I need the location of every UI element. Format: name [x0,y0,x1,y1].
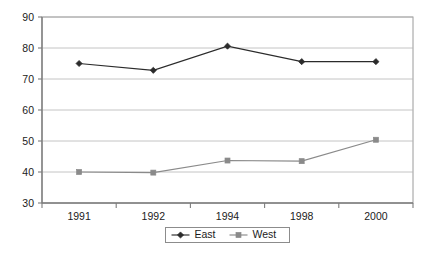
x-axis-tick-labels: 19911992199419982000 [67,210,387,222]
y-tick-label: 30 [22,197,34,209]
y-tick-label: 80 [22,42,34,54]
x-tick-label: 1992 [142,210,166,222]
y-axis-tick-labels: 30405060708090 [22,11,34,209]
data-point-west [225,158,230,163]
chart-legend[interactable]: EastWest [166,228,290,243]
y-tick-label: 90 [22,11,34,23]
data-point-west [77,170,82,175]
data-point-west [299,159,304,164]
y-tick-label: 40 [22,166,34,178]
x-tick-label: 1991 [67,210,91,222]
legend-marker-west [236,233,241,238]
legend-label-west: West [253,228,277,240]
legend-label-east: East [195,228,216,240]
data-point-west [373,137,378,142]
chart-canvas: 30405060708090 19911992199419982000 East… [0,0,431,260]
data-point-west [151,170,156,175]
y-tick-label: 70 [22,73,34,85]
x-tick-label: 2000 [364,210,388,222]
x-tick-label: 1994 [216,210,240,222]
x-tick-label: 1998 [290,210,314,222]
y-tick-label: 60 [22,104,34,116]
y-tick-label: 50 [22,135,34,147]
line-chart: 30405060708090 19911992199419982000 East… [0,0,431,260]
x-axis-ticks [42,203,413,208]
